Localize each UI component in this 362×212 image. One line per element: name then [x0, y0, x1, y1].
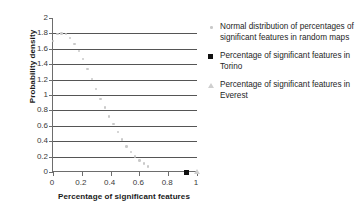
y-tick-label: 0 [22, 168, 48, 176]
y-tick-mark [49, 64, 53, 65]
data-point-dot [52, 40, 54, 42]
y-tick-label: 1.2 [22, 76, 48, 84]
gridline [53, 110, 197, 111]
y-tick-mark [49, 126, 53, 127]
data-point-dot [91, 78, 93, 80]
data-point-dot [147, 165, 149, 167]
x-tick-mark [168, 172, 169, 176]
gridline [53, 64, 197, 65]
legend-label: Normal distribution of percentages of si… [220, 22, 358, 43]
y-tick-label: 2 [22, 14, 48, 22]
y-tick-label: 1.4 [22, 60, 48, 68]
square-marker-icon [206, 52, 220, 62]
y-tick-label: 1.6 [22, 45, 48, 53]
data-point-square [184, 170, 189, 175]
data-point-dot [82, 58, 84, 60]
gridline [53, 80, 197, 81]
y-tick-label: 0.2 [22, 153, 48, 161]
chart-legend: Normal distribution of percentages of si… [206, 22, 358, 110]
y-tick-mark [49, 18, 53, 19]
probability-density-chart: Probability density 00.20.40.60.811.21.4… [0, 0, 362, 212]
x-tick-label: 1 [181, 178, 211, 187]
x-tick-mark [53, 172, 54, 176]
data-point-dot [143, 162, 145, 164]
y-tick-mark [49, 33, 53, 34]
x-axis-tick-labels: 00.20.40.60.81 [52, 178, 196, 190]
data-point-dot [86, 68, 88, 70]
legend-entry[interactable]: Percentage of significant features in To… [206, 51, 358, 72]
data-point-dot [104, 106, 106, 108]
gridline [53, 95, 197, 96]
triangle-marker-icon [206, 81, 220, 91]
legend-entry[interactable]: Percentage of significant features in Ev… [206, 80, 358, 101]
data-point-triangle [194, 169, 200, 174]
y-tick-mark [49, 80, 53, 81]
data-point-dot [56, 33, 58, 35]
y-tick-mark [49, 157, 53, 158]
data-point-dot [125, 145, 127, 147]
gridline [53, 126, 197, 127]
y-tick-label: 0.8 [22, 106, 48, 114]
data-point-dot [138, 159, 140, 161]
x-tick-label: 0.2 [66, 178, 96, 187]
legend-label: Percentage of significant features in Ev… [220, 80, 358, 101]
x-tick-label: 0.6 [123, 178, 153, 187]
data-point-dot [99, 98, 101, 100]
x-tick-label: 0.8 [152, 178, 182, 187]
x-tick-mark [111, 172, 112, 176]
legend-label: Percentage of significant features in To… [220, 51, 358, 72]
dot-marker-icon [206, 23, 220, 33]
x-tick-label: 0 [37, 178, 67, 187]
x-tick-mark [82, 172, 83, 176]
x-axis-title: Percentage of significant features [24, 192, 224, 201]
y-tick-label: 1.8 [22, 29, 48, 37]
x-tick-label: 0.4 [95, 178, 125, 187]
y-tick-label: 1 [22, 91, 48, 99]
plot-area [52, 18, 196, 172]
y-tick-mark [49, 110, 53, 111]
data-point-dot [69, 37, 71, 39]
gridline [53, 157, 197, 158]
gridline [53, 141, 197, 142]
data-point-dot [65, 33, 67, 35]
data-point-dot [130, 151, 132, 153]
y-tick-mark [49, 141, 53, 142]
gridline [53, 49, 197, 50]
data-point-dot [95, 88, 97, 90]
y-tick-mark [49, 49, 53, 50]
data-point-dot [108, 115, 110, 117]
y-tick-mark [49, 95, 53, 96]
y-tick-label: 0.6 [22, 122, 48, 130]
gridline [53, 33, 197, 34]
y-tick-label: 0.4 [22, 137, 48, 145]
x-tick-mark [139, 172, 140, 176]
data-point-dot [73, 43, 75, 45]
data-point-dot [117, 131, 119, 133]
data-point-dot [60, 32, 62, 34]
legend-entry[interactable]: Normal distribution of percentages of si… [206, 22, 358, 43]
data-point-dot [78, 50, 80, 52]
